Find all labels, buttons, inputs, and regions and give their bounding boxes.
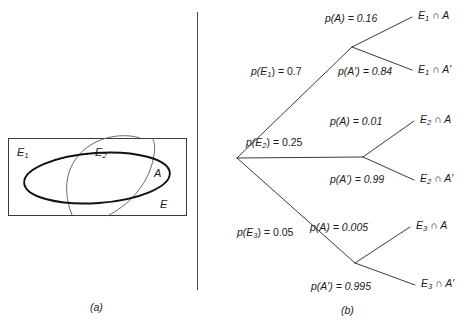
tree-outcome-e1-aprime: E1 ∩ A′: [418, 64, 451, 75]
figure-vector-layer: [0, 0, 474, 324]
tree-outcome-e1-a: E1 ∩ A: [418, 10, 449, 21]
figure-root: E1 E2 A E3 p(E1) = 0.7 p(E2) = 0.25 p(E3…: [0, 0, 474, 324]
venn-partition-curve-2: [107, 138, 155, 216]
venn-label-e2: E2: [95, 147, 107, 158]
panel-caption-a: (a): [90, 302, 103, 313]
tree-outcome-e2-aprime: E2 ∩ A′: [420, 173, 453, 184]
tree-outcome-e2-a: E2 ∩ A: [420, 114, 451, 125]
panel-caption-b: (b): [341, 305, 354, 316]
tree-branch-e2: [237, 157, 363, 158]
tree-outcome-e3-aprime: E3 ∩ A′: [421, 278, 454, 289]
tree-prob-label-e3-aprime: p(A′) = 0.995: [311, 281, 371, 292]
tree-prob-label-e1: p(E1) = 0.7: [251, 66, 302, 77]
tree-prob-label-e3-a: p(A) = 0.005: [310, 222, 368, 233]
tree-prob-label-e1-a: p(A) = 0.16: [325, 13, 377, 24]
venn-label-e3: E3: [160, 199, 167, 210]
tree-prob-label-e1-aprime: p(A′) = 0.84: [338, 66, 392, 77]
venn-label-e1: E1: [17, 147, 29, 158]
tree-prob-label-e2-aprime: p(A′) = 0.99: [330, 174, 384, 185]
venn-label-a: A: [154, 168, 161, 179]
tree-prob-label-e2: p(E2) = 0.25: [246, 137, 302, 148]
tree-prob-label-e3: p(E3) = 0.05: [237, 227, 293, 238]
probability-tree-group: [237, 17, 415, 285]
tree-outcome-e3-a: E3 ∩ A: [416, 220, 447, 231]
tree-prob-label-e2-a: p(A) = 0.01: [330, 116, 382, 127]
